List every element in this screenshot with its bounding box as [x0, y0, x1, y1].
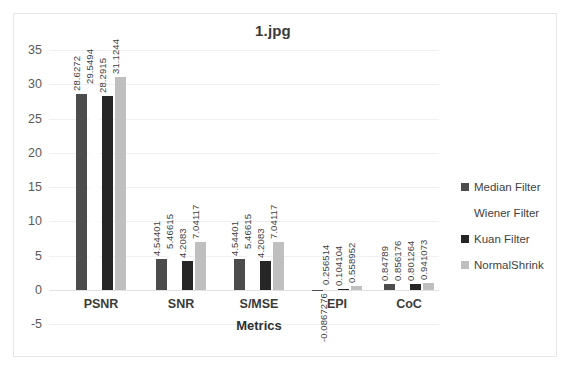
category-label-psnr: PSNR	[84, 297, 119, 311]
legend-swatch-icon	[461, 261, 469, 269]
bar[interactable]: 0.558952	[351, 286, 362, 290]
bar-value-label: 0.856176	[392, 240, 403, 280]
bar-value-label: 0.104104	[333, 246, 344, 286]
bar[interactable]: 0.941073	[423, 283, 434, 289]
bar[interactable]: 31.1244	[115, 77, 126, 290]
bar-value-label: 0.941073	[418, 240, 429, 280]
y-axis-tick-label: 0	[35, 283, 42, 297]
category-label-s-mse: S/MSE	[240, 297, 279, 311]
bar[interactable]: 28.6272	[76, 94, 87, 290]
bar[interactable]: -0.0867276	[312, 290, 323, 291]
bar-value-label: 0.256514	[320, 245, 331, 285]
bar-value-label: 0.558952	[346, 242, 357, 282]
bar-value-label: 4.2083	[255, 228, 266, 258]
bar[interactable]: 28.2915	[102, 96, 113, 290]
bar-value-label: 4.2083	[177, 228, 188, 258]
bar[interactable]: 4.2083	[182, 261, 193, 290]
bar[interactable]: 0.104104	[338, 289, 349, 290]
bar-value-label: 28.2915	[97, 58, 108, 93]
y-axis-tick-label: 10	[28, 214, 42, 228]
bar[interactable]: 0.801264	[410, 284, 421, 289]
bars: 4.544015.466154.20837.04117	[151, 50, 211, 324]
legend-item-wiener-filter[interactable]: Wiener Filter	[461, 200, 566, 226]
bars: 28.627229.549428.291531.1244	[71, 50, 131, 324]
bars: -0.08672760.2565140.1041040.558952	[307, 50, 367, 324]
bar-value-label: 7.04117	[268, 204, 279, 238]
legend-item-label: Median Filter	[474, 181, 540, 193]
bar[interactable]: 4.2083	[260, 261, 271, 290]
bar[interactable]: 4.54401	[234, 259, 245, 290]
bar-value-label: 0.84789	[379, 246, 390, 281]
category-label-epi: EPI	[327, 297, 347, 311]
bar-group-s-mse: 4.544015.466154.20837.04117S/MSE	[229, 50, 289, 324]
y-axis-tick-label: 20	[28, 146, 42, 160]
legend-item-label: NormalShrink	[474, 259, 544, 271]
y-axis-tick-label: 15	[28, 180, 42, 194]
bar[interactable]: 7.04117	[195, 242, 206, 290]
y-axis-tick-label: 25	[28, 112, 42, 126]
bar[interactable]: 7.04117	[273, 242, 284, 290]
bar[interactable]: 29.5494	[89, 87, 100, 289]
bar-value-label: 28.6272	[71, 56, 82, 91]
category-label-coc: CoC	[396, 297, 422, 311]
legend-swatch-icon	[461, 209, 469, 217]
bar[interactable]: 0.256514	[325, 288, 336, 290]
bar-value-label: 5.46615	[242, 214, 253, 249]
bar-group-epi: -0.08672760.2565140.1041040.558952EPI	[307, 50, 367, 324]
category-label-snr: SNR	[168, 297, 194, 311]
legend-item-label: Kuan Filter	[474, 233, 530, 245]
y-axis-tick-label: 35	[28, 43, 42, 57]
legend-swatch-icon	[461, 235, 469, 243]
bar-value-label: 5.46615	[164, 214, 175, 249]
legend-item-median-filter[interactable]: Median Filter	[461, 174, 566, 200]
bars: 0.847890.8561760.8012640.941073	[379, 50, 439, 324]
bar[interactable]: 4.54401	[156, 259, 167, 290]
chart-legend: Median FilterWiener FilterKuan FilterNor…	[461, 174, 566, 278]
chart-container: 1.jpg 35302520151050-5 28.627229.549428.…	[13, 13, 557, 357]
y-axis-tick-label: 5	[35, 249, 42, 263]
bar-value-label: 7.04117	[190, 204, 201, 238]
y-axis-tick-label: -5	[31, 317, 42, 331]
bar-value-label: 0.801264	[405, 241, 416, 281]
bar-group-psnr: 28.627229.549428.291531.1244PSNR	[71, 50, 131, 324]
bar[interactable]: 0.856176	[397, 284, 408, 290]
legend-item-kuan-filter[interactable]: Kuan Filter	[461, 226, 566, 252]
bar-value-label: 31.1244	[110, 39, 121, 74]
bar-group-coc: 0.847890.8561760.8012640.941073CoC	[379, 50, 439, 324]
chart-title: 1.jpg	[2, 22, 544, 39]
legend-swatch-icon	[461, 183, 469, 191]
bar[interactable]: 0.84789	[384, 284, 395, 290]
x-axis-title: Metrics	[236, 318, 282, 333]
plot-area: 35302520151050-5 28.627229.549428.291531…	[49, 50, 439, 324]
bar-value-label: 4.54401	[229, 221, 240, 256]
y-axis-tick-label: 30	[28, 77, 42, 91]
bars: 4.544015.466154.20837.04117	[229, 50, 289, 324]
bar-value-label: 4.54401	[151, 221, 162, 256]
bar-value-label: 29.5494	[84, 49, 95, 84]
legend-item-normalshrink[interactable]: NormalShrink	[461, 252, 566, 278]
legend-item-label: Wiener Filter	[474, 207, 539, 219]
bar-group-snr: 4.544015.466154.20837.04117SNR	[151, 50, 211, 324]
